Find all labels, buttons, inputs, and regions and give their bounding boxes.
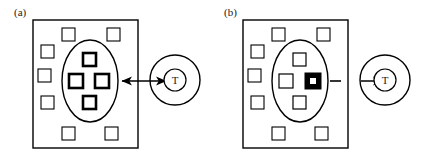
inner-square-left — [279, 74, 293, 88]
outer-square — [62, 127, 75, 140]
outer-square — [38, 69, 51, 82]
panel-b-highlighted-square — [305, 73, 321, 89]
outer-square — [272, 127, 285, 140]
inner-square-bottom — [293, 96, 306, 109]
panel-b-label: (b) — [224, 6, 237, 19]
outer-square — [41, 96, 54, 109]
inner-square-top — [83, 53, 96, 66]
inner-square-right — [95, 74, 109, 88]
figure-diagram: (a) T (b) — [0, 0, 432, 163]
panel-a-label: (a) — [14, 6, 27, 19]
outer-square — [272, 28, 285, 41]
outer-square — [62, 28, 75, 41]
selected-square-core — [310, 78, 316, 84]
inner-square-top — [293, 53, 306, 66]
inner-square-bottom — [83, 96, 96, 109]
outer-square — [315, 127, 328, 140]
panel-b-node-label: T — [382, 74, 389, 86]
outer-square — [248, 69, 261, 82]
outer-square — [317, 28, 330, 41]
outer-square — [41, 45, 54, 58]
outer-square — [251, 96, 264, 109]
outer-square — [105, 127, 118, 140]
inner-square-left — [69, 74, 83, 88]
outer-square — [107, 28, 120, 41]
outer-square — [251, 45, 264, 58]
panel-a-node-label: T — [172, 74, 179, 86]
